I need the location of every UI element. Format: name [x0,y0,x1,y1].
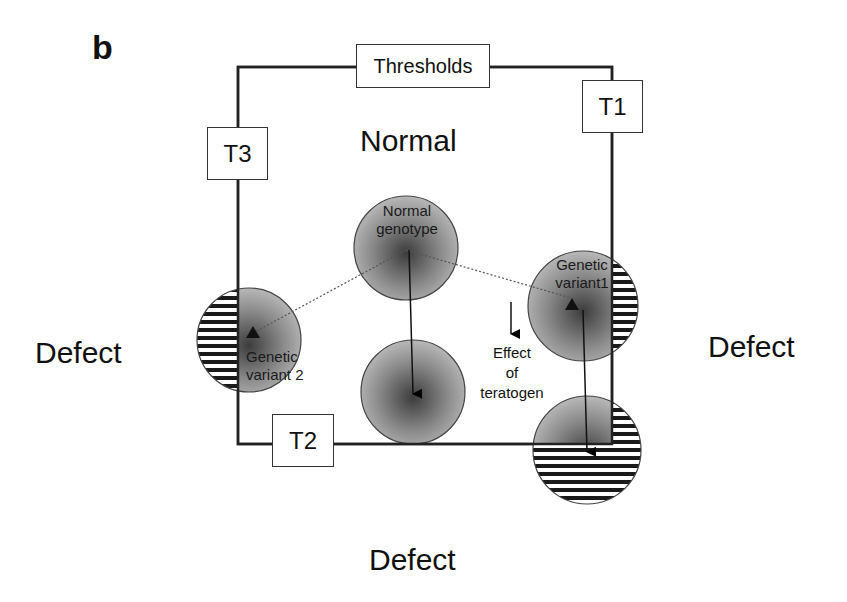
threshold-t3-box: T3 [207,127,268,180]
thresholds-label: Thresholds [374,55,473,78]
threshold-t3-label: T3 [223,140,251,168]
defect-right-label: Defect [708,330,795,364]
normal-region-label: Normal [360,124,457,158]
threshold-t2-label: T2 [289,427,317,455]
genetic-variant-2-label: Genetic variant 2 [246,348,314,384]
teratogen-effect-legend: Effect of teratogen [475,343,549,403]
normal-genotype-label: Normal genotype [370,202,444,238]
diagram-canvas [0,0,847,602]
panel-letter: b [92,28,113,67]
genetic-variant-1-label: Genetic variant1 [540,256,624,292]
defect-left-label: Defect [35,336,122,370]
threshold-t2-box: T2 [272,414,334,467]
threshold-t1-label: T1 [598,93,626,121]
threshold-t1-box: T1 [582,80,643,133]
defect-bottom-label: Defect [369,543,456,577]
thresholds-box: Thresholds [356,44,490,88]
